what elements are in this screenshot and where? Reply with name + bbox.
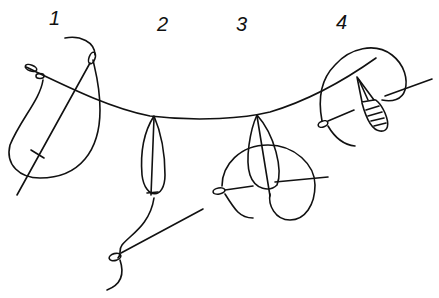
step-3-figure [213, 115, 328, 220]
step-1-figure [9, 37, 100, 195]
step-4-figure [317, 48, 432, 146]
knot-illustration [0, 0, 439, 298]
main-line [26, 58, 376, 119]
step-2-figure [107, 116, 203, 290]
knot-diagram: 1 2 3 4 [0, 0, 439, 298]
